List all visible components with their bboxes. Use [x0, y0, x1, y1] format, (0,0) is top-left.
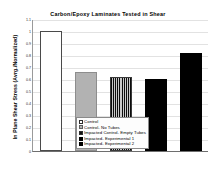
- legend-swatch-icon: [79, 120, 83, 124]
- legend-item-label: Control- No Tubes: [84, 125, 120, 130]
- y-axis-tick-label: 0.1: [26, 138, 31, 142]
- chart-title: Carbon/Epoxy Laminates Tested in Shear: [0, 11, 216, 18]
- y-axis-tick-label: 1.1: [26, 18, 31, 22]
- y-axis-tick-label: 1: [29, 30, 31, 34]
- legend-item-label: Impacted- Experimental 2: [84, 141, 134, 146]
- bar: [180, 53, 202, 151]
- y-axis-tick-label: 0.9: [26, 42, 31, 46]
- y-axis-tick-label: 0.8: [26, 54, 31, 58]
- bar: [40, 31, 62, 151]
- legend-item-label: Impacted Control- Empty Tubes: [84, 130, 146, 135]
- legend-item-label: Impacted- Experimental 1: [84, 136, 134, 141]
- legend-swatch-icon: [79, 142, 83, 146]
- legend-swatch-icon: [79, 137, 83, 141]
- y-axis-tick-label: 0: [29, 150, 31, 154]
- legend: ControlControl- No TubesImpacted Control…: [76, 117, 149, 149]
- legend-item-label: Control: [84, 119, 98, 124]
- y-axis-tick-label: 0.3: [26, 114, 31, 118]
- bar-chart: Carbon/Epoxy Laminates Tested in Shear I…: [0, 0, 216, 176]
- legend-item: Impacted- Experimental 2: [79, 141, 146, 147]
- y-axis-tick-label: 0.4: [26, 102, 31, 106]
- y-axis-tick-label: 0.2: [26, 126, 31, 130]
- y-axis-tick-labels: 00.10.20.30.40.50.60.70.80.911.1: [18, 20, 31, 152]
- legend-swatch-icon: [79, 131, 83, 135]
- y-axis-tick-label: 0.7: [26, 66, 31, 70]
- y-axis-tick-label: 0.6: [26, 78, 31, 82]
- y-axis-tick-label: 0.5: [26, 90, 31, 94]
- legend-swatch-icon: [79, 125, 83, 129]
